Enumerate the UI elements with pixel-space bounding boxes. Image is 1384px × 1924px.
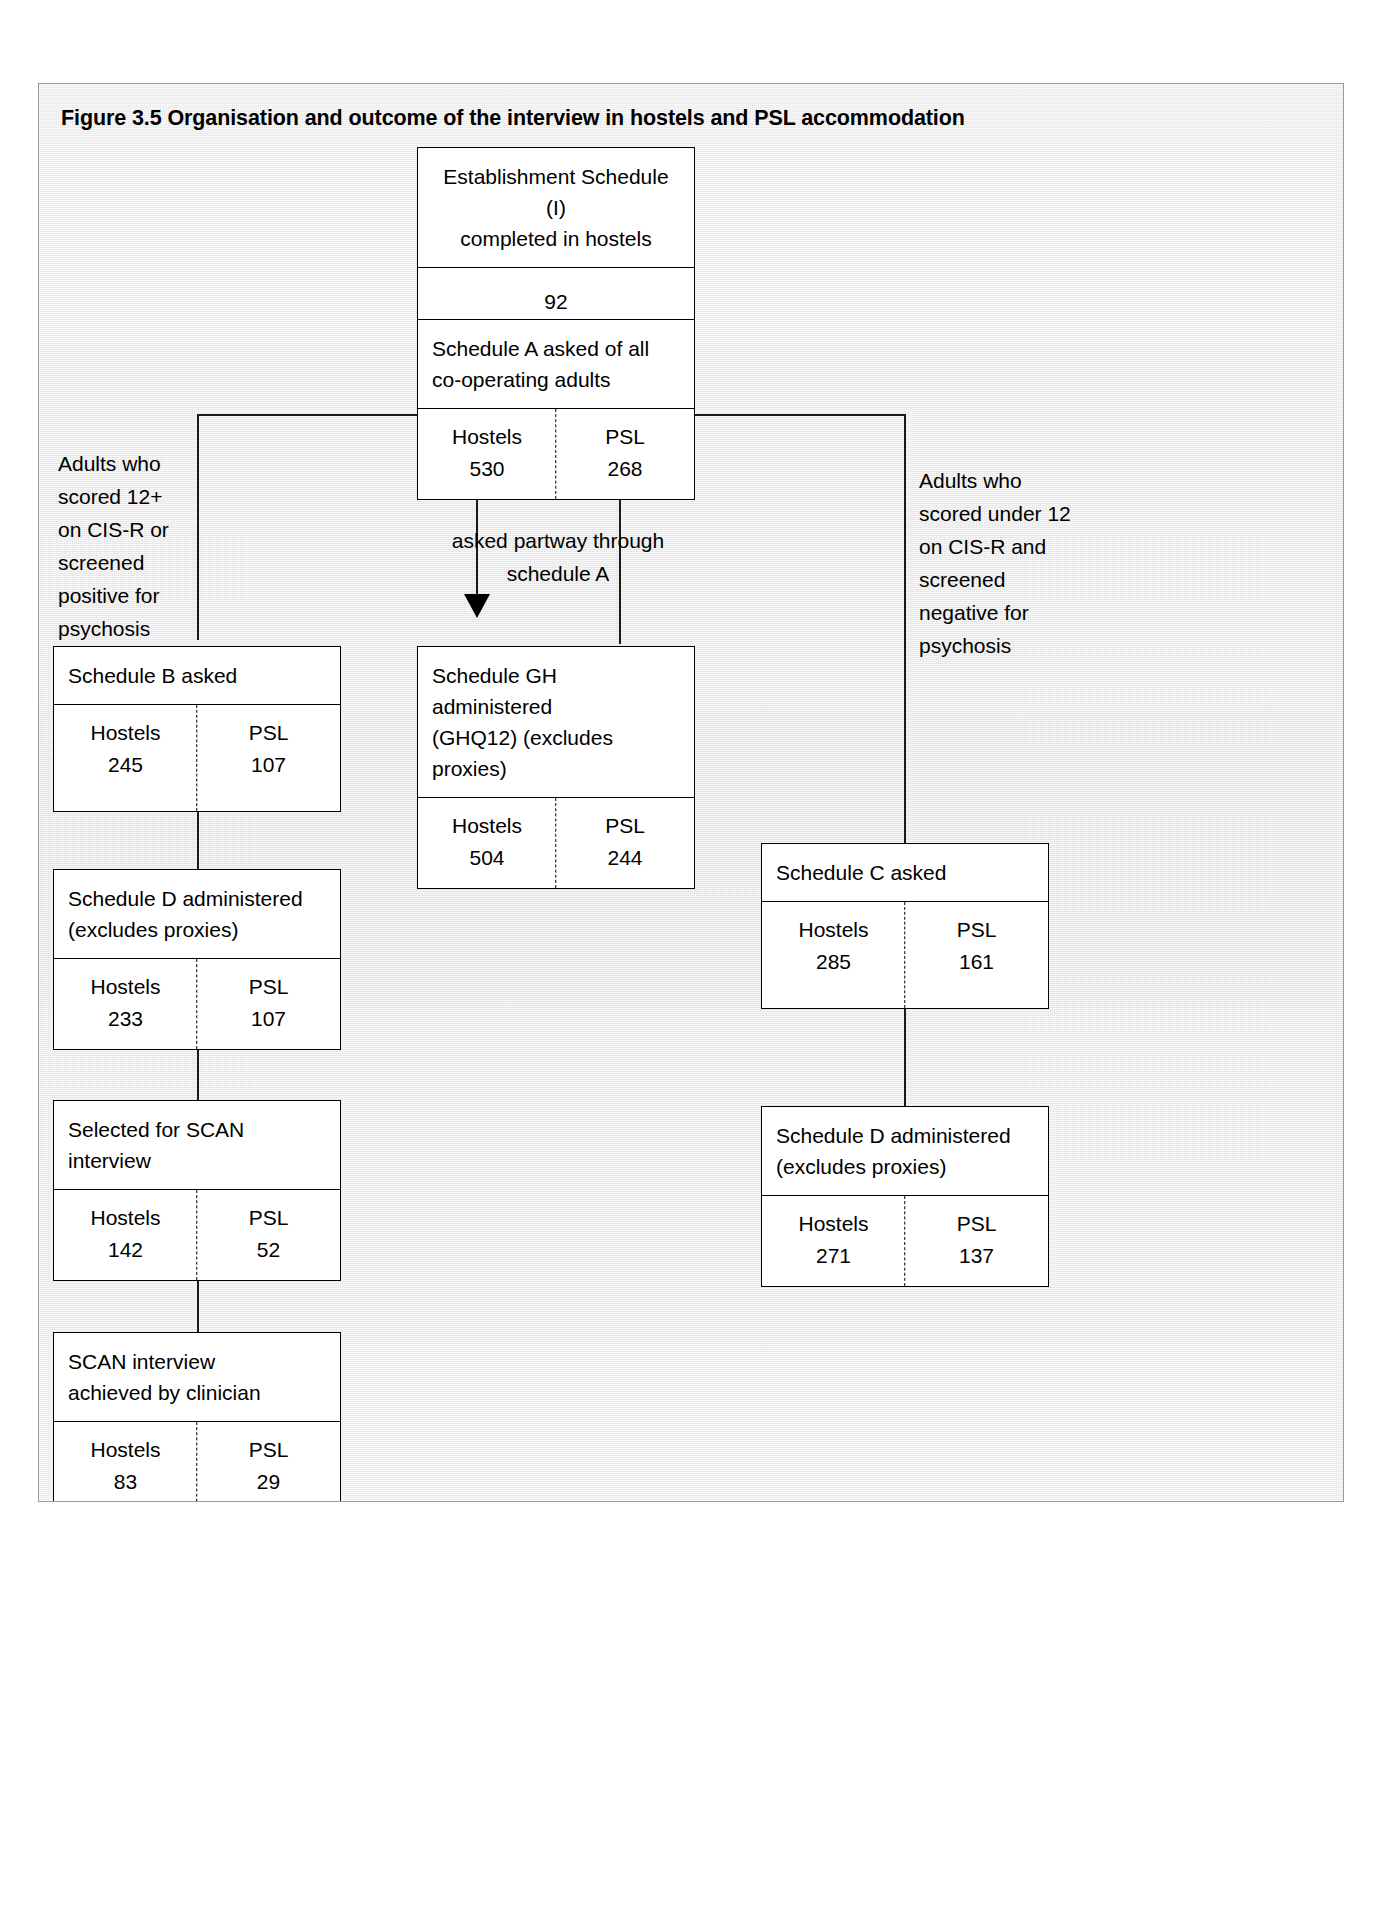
node-schedule-d-left-title-line1: Schedule D administered <box>68 883 326 914</box>
label-hostels: Hostels <box>58 971 193 1003</box>
node-schedule-a-values: Hostels 530 PSL 268 <box>418 408 694 499</box>
node-schedule-d-right: Schedule D administered (excludes proxie… <box>761 1106 1049 1287</box>
node-schedule-gh: Schedule GH administered (GHQ12) (exclud… <box>417 646 695 889</box>
node-schedule-c-title-line1: Schedule C asked <box>776 857 1034 888</box>
node-schedule-d-left-hostels: Hostels 233 <box>54 959 197 1049</box>
node-selected-scan-title-line1: Selected for SCAN <box>68 1114 326 1145</box>
node-schedule-gh-title-line1: Schedule GH administered <box>432 660 680 722</box>
node-schedule-d-right-hostels: Hostels 271 <box>762 1196 905 1286</box>
value-hostels: 245 <box>58 749 193 781</box>
value-psl: 107 <box>201 749 336 781</box>
node-schedule-gh-values: Hostels 504 PSL 244 <box>418 797 694 888</box>
connector-schedule-c-to-schedule-d-right <box>904 994 906 1106</box>
node-schedule-b-title: Schedule B asked <box>54 647 340 704</box>
value-psl: 137 <box>909 1240 1044 1272</box>
node-schedule-d-left-title: Schedule D administered (excludes proxie… <box>54 870 340 958</box>
label-psl: PSL <box>560 810 690 842</box>
node-scan-achieved-title-line1: SCAN interview <box>68 1346 326 1377</box>
node-schedule-a-psl: PSL 268 <box>556 409 694 499</box>
cell-divider <box>196 1422 197 1502</box>
node-schedule-c-values: Hostels 285 PSL 161 <box>762 901 1048 1008</box>
node-selected-scan-hostels: Hostels 142 <box>54 1190 197 1280</box>
annotation-left-branch: Adults who scored 12+ on CIS-R or screen… <box>58 447 183 645</box>
node-schedule-gh-psl: PSL 244 <box>556 798 694 888</box>
label-hostels: Hostels <box>766 914 901 946</box>
value-hostels: 504 <box>422 842 552 874</box>
node-establishment-title-line1: Establishment Schedule (I) <box>432 161 680 223</box>
figure-panel: Figure 3.5 Organisation and outcome of t… <box>38 83 1344 1502</box>
label-psl: PSL <box>909 1208 1044 1240</box>
cell-divider <box>555 409 556 499</box>
value-hostels: 285 <box>766 946 901 978</box>
label-psl: PSL <box>201 1202 336 1234</box>
node-schedule-c-hostels: Hostels 285 <box>762 902 905 1008</box>
node-scan-achieved: SCAN interview achieved by clinician Hos… <box>53 1332 341 1502</box>
node-schedule-c: Schedule C asked Hostels 285 PSL 161 <box>761 843 1049 1009</box>
node-schedule-c-psl: PSL 161 <box>905 902 1048 1008</box>
label-hostels: Hostels <box>766 1208 901 1240</box>
node-schedule-d-left-values: Hostels 233 PSL 107 <box>54 958 340 1049</box>
node-schedule-b: Schedule B asked Hostels 245 PSL 107 <box>53 646 341 812</box>
node-schedule-a-title: Schedule A asked of all co-operating adu… <box>418 320 694 408</box>
label-hostels: Hostels <box>422 421 552 453</box>
node-scan-achieved-title-line2: achieved by clinician <box>68 1377 326 1408</box>
annotation-partway-line1: asked partway through <box>419 524 697 557</box>
node-schedule-c-title: Schedule C asked <box>762 844 1048 901</box>
cell-divider <box>196 959 197 1049</box>
node-schedule-d-right-title: Schedule D administered (excludes proxie… <box>762 1107 1048 1195</box>
label-psl: PSL <box>201 1434 336 1466</box>
node-schedule-d-right-psl: PSL 137 <box>905 1196 1048 1286</box>
cell-divider <box>196 705 197 811</box>
figure-title: Figure 3.5 Organisation and outcome of t… <box>61 106 965 131</box>
value-hostels: 530 <box>422 453 552 485</box>
value-psl: 29 <box>201 1466 336 1498</box>
node-selected-scan: Selected for SCAN interview Hostels 142 … <box>53 1100 341 1281</box>
node-establishment-title-line2: completed in hostels <box>432 223 680 254</box>
value-psl: 52 <box>201 1234 336 1266</box>
node-selected-scan-title: Selected for SCAN interview <box>54 1101 340 1189</box>
label-hostels: Hostels <box>58 1434 193 1466</box>
node-schedule-b-hostels: Hostels 245 <box>54 705 197 811</box>
value-psl: 244 <box>560 842 690 874</box>
cell-divider <box>904 902 905 1008</box>
connector-schedule-b-to-schedule-d <box>197 804 199 869</box>
cell-divider <box>196 1190 197 1280</box>
arrow-down-to-schedule-gh <box>464 594 490 618</box>
node-establishment-title: Establishment Schedule (I) completed in … <box>418 148 694 267</box>
value-psl: 268 <box>560 453 690 485</box>
value-hostels: 83 <box>58 1466 193 1498</box>
node-scan-achieved-psl: PSL 29 <box>197 1422 340 1502</box>
node-schedule-a: Schedule A asked of all co-operating adu… <box>417 319 695 500</box>
node-schedule-d-left: Schedule D administered (excludes proxie… <box>53 869 341 1050</box>
node-selected-scan-psl: PSL 52 <box>197 1190 340 1280</box>
node-schedule-a-title-line2: co-operating adults <box>432 364 680 395</box>
connector-branch-right-vertical <box>904 414 906 843</box>
node-schedule-d-right-title-line1: Schedule D administered <box>776 1120 1034 1151</box>
node-schedule-b-psl: PSL 107 <box>197 705 340 811</box>
node-schedule-b-values: Hostels 245 PSL 107 <box>54 704 340 811</box>
node-establishment-schedule: Establishment Schedule (I) completed in … <box>417 147 695 339</box>
connector-branch-left-vertical <box>197 414 199 640</box>
value-hostels: 142 <box>58 1234 193 1266</box>
label-psl: PSL <box>909 914 1044 946</box>
annotation-partway-line2: schedule A <box>419 557 697 590</box>
node-scan-achieved-title: SCAN interview achieved by clinician <box>54 1333 340 1421</box>
node-schedule-b-title-line1: Schedule B asked <box>68 660 326 691</box>
value-hostels: 233 <box>58 1003 193 1035</box>
node-schedule-gh-title: Schedule GH administered (GHQ12) (exclud… <box>418 647 694 797</box>
annotation-right-branch: Adults who scored under 12 on CIS-R and … <box>919 464 1079 662</box>
cell-divider <box>904 1196 905 1286</box>
node-selected-scan-title-line2: interview <box>68 1145 326 1176</box>
cell-divider <box>555 798 556 888</box>
value-psl: 161 <box>909 946 1044 978</box>
node-schedule-d-right-values: Hostels 271 PSL 137 <box>762 1195 1048 1286</box>
node-selected-scan-values: Hostels 142 PSL 52 <box>54 1189 340 1280</box>
label-psl: PSL <box>201 717 336 749</box>
label-hostels: Hostels <box>58 1202 193 1234</box>
node-schedule-d-left-psl: PSL 107 <box>197 959 340 1049</box>
node-scan-achieved-values: Hostels 83 PSL 29 <box>54 1421 340 1502</box>
label-hostels: Hostels <box>58 717 193 749</box>
label-psl: PSL <box>201 971 336 1003</box>
value-hostels: 271 <box>766 1240 901 1272</box>
value-psl: 107 <box>201 1003 336 1035</box>
